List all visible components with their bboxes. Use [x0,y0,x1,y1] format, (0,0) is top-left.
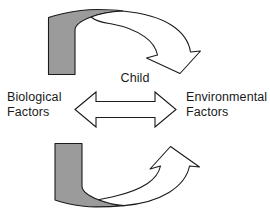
diagram-canvas: Child Biological Factors Environmental F… [0,0,270,218]
top-curved-arrow [49,10,201,75]
center-label-child: Child [0,71,270,86]
left-label-biological-factors: Biological Factors [7,90,62,120]
bottom-arc-white-segment-with-head [99,147,200,206]
bottom-curved-arrow [55,144,200,207]
center-double-arrow [75,92,176,127]
right-label-environmental-factors: Environmental Factors [186,90,267,120]
top-arc-white-segment-with-head [91,11,201,74]
center-label-text: Child [0,71,270,86]
double-arrow-outline [75,92,176,127]
left-label-line2: Factors [7,105,62,120]
right-label-line1: Environmental [186,90,267,105]
left-label-line1: Biological [7,90,62,105]
right-label-line2: Factors [186,105,267,120]
